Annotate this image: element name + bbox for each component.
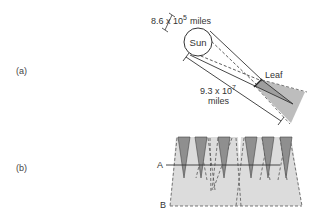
line-a-label: A: [157, 160, 163, 170]
diameter-label: 8.6 x 105miles: [151, 14, 211, 26]
line-b-label: B: [160, 200, 166, 210]
distance-unit: miles: [208, 96, 230, 106]
sun-label: Sun: [190, 37, 207, 48]
sun-leaf-diagram: Sun 8.6 x 105miles 9.3 x 107 miles Leaf: [0, 0, 320, 217]
panel-a: Sun 8.6 x 105miles 9.3 x 107 miles Leaf: [151, 13, 307, 125]
ray-top-solid: [210, 31, 262, 80]
leaf-label: Leaf: [265, 70, 283, 80]
panel-b: A B: [157, 137, 302, 210]
distance-label: 9.3 x 107: [200, 84, 236, 96]
